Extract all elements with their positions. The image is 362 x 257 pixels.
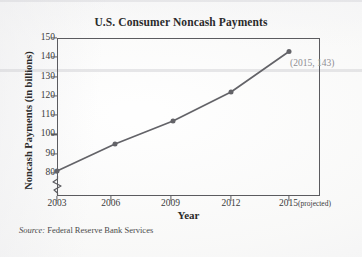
data-point [171, 118, 176, 123]
data-point [55, 169, 60, 174]
source-label: Source: [19, 225, 45, 235]
data-point [113, 142, 118, 147]
data-point [229, 90, 234, 95]
point-annotation: (2015, 143) [290, 58, 334, 68]
source-note: Source: Federal Reserve Bank Services [19, 225, 153, 235]
source-text: Federal Reserve Bank Services [47, 225, 153, 235]
data-series [0, 0, 362, 257]
chart-figure: U.S. Consumer Noncash Payments 150 140 1… [0, 0, 362, 257]
series-line [57, 52, 289, 172]
data-point [287, 49, 292, 54]
